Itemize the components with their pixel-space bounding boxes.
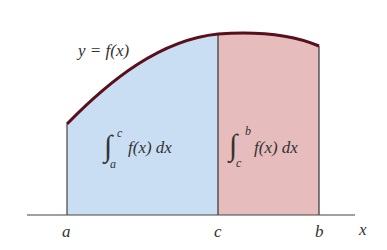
right-integral-integrand: f(x) dx — [254, 138, 298, 157]
axis-label-b: b — [315, 222, 324, 241]
axis-label-c: c — [214, 222, 222, 241]
region-c-to-b — [218, 33, 319, 215]
axis-label-x: x — [358, 220, 367, 239]
axis-label-a: a — [62, 222, 71, 241]
integral-additivity-diagram: y = f(x) ∫ c a f(x) dx ∫ b c f(x) dx a c… — [0, 0, 387, 250]
right-integral-lower: c — [236, 156, 242, 170]
right-integral-upper: b — [245, 124, 251, 138]
curve-label: y = f(x) — [76, 41, 129, 60]
left-integral-upper: c — [117, 126, 123, 140]
left-integral-integrand: f(x) dx — [128, 138, 172, 157]
left-integral-lower: a — [110, 157, 116, 171]
